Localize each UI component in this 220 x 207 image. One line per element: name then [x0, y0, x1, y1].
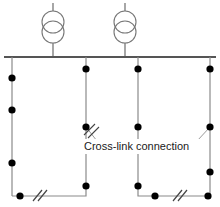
transformer-2 — [114, 3, 136, 57]
transformer-2-winding-secondary-icon — [114, 21, 136, 43]
cross-link-leaders — [84, 124, 210, 141]
node-f2-a — [82, 65, 89, 72]
node-f2-bottom — [82, 182, 89, 189]
node-f4-bottom — [204, 192, 211, 199]
bottom-right-tie — [138, 186, 208, 201]
node-f4-a — [206, 65, 213, 72]
single-line-diagram: Cross-link connection — [0, 0, 220, 207]
node-f1-a — [8, 74, 15, 81]
bottom-right-tie-path — [138, 186, 208, 196]
cross-link-label: Cross-link connection — [84, 140, 189, 152]
bottom-left-tie — [12, 186, 86, 201]
node-f2-crosslink — [82, 123, 89, 130]
node-f1-bottom — [16, 192, 23, 199]
node-f4-b — [206, 168, 213, 175]
node-br-left — [151, 192, 158, 199]
diagram-root: Cross-link connection — [0, 0, 220, 207]
cross-link-annotation: Cross-link connection — [80, 139, 200, 154]
transformer-1-winding-secondary-icon — [42, 21, 64, 43]
node-f1-c — [8, 159, 15, 166]
node-f4-crosslink — [206, 123, 213, 130]
node-f1-b — [8, 106, 15, 113]
transformer-1-winding-primary-icon — [42, 11, 64, 33]
node-f3-b — [134, 123, 141, 130]
node-f3-a — [134, 65, 141, 72]
node-f3-bottom — [134, 182, 141, 189]
transformer-2-winding-primary-icon — [114, 11, 136, 33]
transformer-1 — [42, 3, 64, 57]
